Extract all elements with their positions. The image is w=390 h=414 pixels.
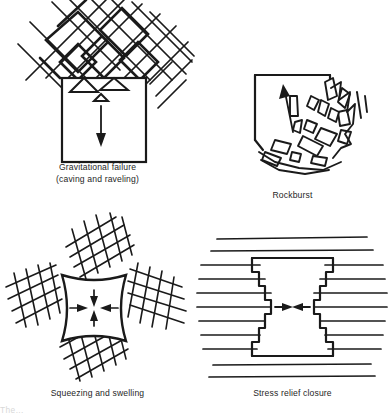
bedding-planes-floor [209, 364, 375, 377]
caption-stress-relief-closure: Stress relief closure [195, 388, 390, 400]
panel-squeezing-swelling: Squeezing and swelling [0, 207, 195, 407]
panel-gravitational-failure: Gravitational failure (caving and raveli… [0, 0, 195, 207]
caption-rockburst: Rockburst [195, 190, 390, 202]
bedding-planes-roof [211, 237, 373, 251]
hatch-mass-left [6, 263, 62, 327]
panel-rockburst: Rockburst [195, 0, 390, 207]
rockburst-drawing [195, 0, 390, 207]
caption-line-1: Gravitational failure [0, 162, 195, 174]
caption-squeezing-swelling: Squeezing and swelling [0, 388, 195, 400]
rhombic-blocks [40, 0, 158, 80]
caption-line-1: Stress relief closure [195, 388, 390, 400]
panel-stress-relief-closure: Stress relief closure [195, 207, 390, 407]
caption-line-1: Squeezing and swelling [0, 388, 195, 400]
arrow-left [292, 303, 310, 311]
caption-gravitational-failure: Gravitational failure (caving and raveli… [0, 162, 195, 185]
arrow-right [275, 303, 293, 311]
stress-relief-closure-drawing [195, 207, 390, 407]
arrows-closure [275, 303, 310, 311]
caption-line-2: (caving and raveling) [0, 174, 195, 186]
squeezing-swelling-drawing [0, 207, 195, 407]
hatch-mass-top [66, 213, 134, 279]
caption-line-1: Rockburst [195, 190, 390, 202]
hatch-mass-right [128, 263, 186, 329]
figure-rock-failure-modes: Gravitational failure (caving and raveli… [0, 0, 390, 414]
cropped-body-text-artifact: The... [0, 405, 390, 414]
